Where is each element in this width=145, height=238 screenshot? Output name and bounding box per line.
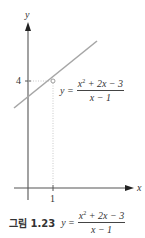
x-axis-arrow-icon: [125, 185, 134, 191]
x-tick-label: 1: [50, 194, 55, 204]
equation-numerator: x2 + 2x − 3: [77, 78, 124, 91]
caption-equation: y = x2 + 2x − 3 x − 1: [61, 210, 125, 235]
caption-denominator: x − 1: [91, 223, 112, 235]
caption-lhs: y =: [61, 217, 75, 228]
equation-denominator: x − 1: [90, 91, 111, 103]
open-circle-hole: [51, 79, 55, 83]
y-tick-label: 4: [16, 76, 21, 86]
caption-fraction: x2 + 2x − 3 x − 1: [78, 210, 125, 235]
y-axis-arrow-icon: [25, 22, 31, 31]
numerator-rest: + 2x − 3: [85, 78, 123, 89]
caption-label: 그림 1.23: [9, 215, 55, 230]
figure-caption: 그림 1.23 y = x2 + 2x − 3 x − 1: [9, 210, 125, 235]
equation-fraction: x2 + 2x − 3 x − 1: [77, 78, 124, 103]
caption-numerator-rest: + 2x − 3: [86, 210, 124, 221]
equation-label: y = x2 + 2x − 3 x − 1: [60, 78, 124, 103]
equation-lhs: y =: [60, 85, 74, 96]
x-axis-label: x: [137, 183, 141, 193]
caption-numerator: x2 + 2x − 3: [78, 210, 125, 223]
y-axis-label: y: [25, 10, 29, 20]
graph-canvas: [0, 0, 145, 238]
